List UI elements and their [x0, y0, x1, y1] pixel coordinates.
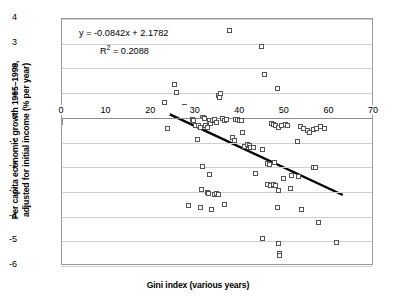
data-point-marker [240, 130, 245, 135]
data-point-marker [275, 86, 280, 91]
x-axis-tick-label: 60 [308, 105, 348, 115]
gridline-y [62, 68, 372, 69]
data-point-marker [313, 165, 318, 170]
gridline-y [62, 143, 372, 144]
data-point-marker [285, 123, 290, 128]
x-axis-tick-label: 0 [41, 105, 81, 115]
data-point-marker [281, 176, 286, 181]
data-point-marker [296, 174, 301, 179]
data-point-marker [232, 138, 237, 143]
data-point-marker [200, 164, 205, 169]
data-point-marker [260, 147, 265, 152]
x-axis-tick-label: 30 [175, 105, 215, 115]
data-point-marker [259, 44, 264, 49]
r-squared-value: = 0.2088 [113, 46, 149, 56]
y-axis-tick-label: 4 [0, 12, 17, 22]
r-squared-label: R2 = 0.2088 [100, 44, 149, 56]
gridline-y [62, 167, 372, 168]
data-point-marker [316, 220, 321, 225]
y-axis-tick-label: -6 [0, 259, 17, 269]
y-axis-tick-label: -5 [0, 234, 17, 244]
x-axis-line [62, 118, 372, 119]
y-axis-tick-label: 0 [0, 111, 17, 121]
x-axis-tick-label: 40 [219, 105, 259, 115]
data-point-marker [262, 72, 267, 77]
y-axis-tick-label: 1 [0, 86, 17, 96]
data-point-marker [260, 236, 265, 241]
data-point-marker [239, 118, 244, 123]
gridline-y [62, 241, 372, 242]
data-point-marker [288, 186, 293, 191]
data-point-marker [253, 171, 258, 176]
data-point-marker [289, 173, 294, 178]
y-axis-tick-label: -4 [0, 210, 17, 220]
data-point-marker [295, 139, 300, 144]
origin-tick [62, 118, 63, 125]
data-point-marker [174, 90, 179, 95]
data-point-marker [186, 203, 191, 208]
gridline-y [62, 266, 372, 267]
x-axis-tick-label: 10 [86, 105, 126, 115]
data-point-marker [216, 192, 221, 197]
x-axis-title: Gini index (various years) [0, 280, 396, 290]
y-axis-tick-label: -1 [0, 136, 17, 146]
data-point-marker [251, 145, 256, 150]
data-point-marker [276, 188, 281, 193]
y-axis-tick-label: -3 [0, 185, 17, 195]
data-point-marker [195, 137, 200, 142]
scatter-chart-figure: Per capita economic growth 1965–1998, ad… [0, 0, 396, 302]
data-point-marker [227, 28, 232, 33]
r-squared-symbol: R2 [100, 46, 110, 56]
data-point-marker [272, 160, 277, 165]
data-point-marker [218, 91, 223, 96]
data-point-marker [299, 207, 304, 212]
data-point-marker [198, 125, 203, 130]
y-axis-tick-label: 3 [0, 37, 17, 47]
data-point-marker [165, 126, 170, 131]
data-point-marker [214, 120, 219, 125]
gridline-y [62, 19, 372, 20]
y-axis-tick-label: 2 [0, 61, 17, 71]
x-axis-tick-label: 20 [130, 105, 170, 115]
gridline-y [62, 217, 372, 218]
data-point-marker [322, 126, 327, 131]
data-point-marker [172, 82, 177, 87]
data-point-marker [275, 205, 280, 210]
data-point-marker [334, 240, 339, 245]
data-point-marker [222, 202, 227, 207]
data-point-marker [198, 205, 203, 210]
data-point-marker [224, 117, 229, 122]
x-axis-tick-label: 70 [353, 105, 393, 115]
regression-equation-label: y = -0.0842x + 2.1782 [79, 28, 168, 38]
regression-line [165, 112, 343, 195]
data-point-marker [209, 207, 214, 212]
data-point-marker [207, 172, 212, 177]
data-point-marker [277, 253, 282, 258]
data-point-marker [199, 187, 204, 192]
y-axis-title-line2: adjusted for initial income (% per year) [21, 63, 31, 217]
data-point-marker [205, 125, 210, 130]
data-point-marker [206, 191, 211, 196]
x-axis-tick-label: 50 [264, 105, 304, 115]
plot-area: y = -0.0842x + 2.1782R2 = 0.2088 [61, 18, 373, 265]
y-axis-tick-label: -2 [0, 160, 17, 170]
data-point-marker [276, 241, 281, 246]
